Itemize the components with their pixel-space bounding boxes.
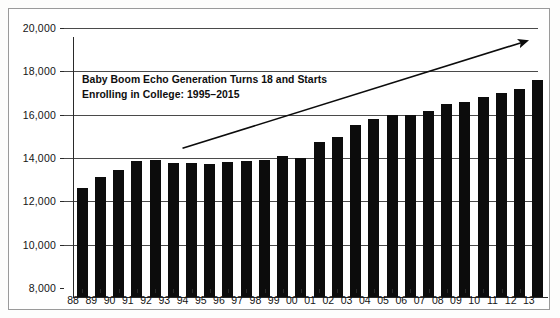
annotation-line-1: Baby Boom Echo Generation Turns 18 and S… xyxy=(82,72,352,87)
x-axis-tick-mark xyxy=(155,289,156,293)
x-axis-tick-mark xyxy=(319,289,320,293)
bar xyxy=(314,142,325,297)
bar xyxy=(222,162,233,297)
x-axis-tick-label: 07 xyxy=(414,294,426,306)
x-axis-tick-label: 02 xyxy=(323,294,335,306)
x-axis-tick-mark xyxy=(520,289,521,293)
bar xyxy=(332,137,343,297)
bar xyxy=(77,188,88,297)
x-axis-tick-label: 00 xyxy=(286,294,298,306)
x-axis-tick-label: 89 xyxy=(86,294,98,306)
bar xyxy=(496,93,507,297)
x-axis-tick-mark xyxy=(246,289,247,293)
x-axis-tick-label: 12 xyxy=(505,294,517,306)
x-axis-tick-label: 06 xyxy=(395,294,407,306)
x-axis-tick-label: 13 xyxy=(523,294,535,306)
y-axis-tick-mark xyxy=(60,158,64,159)
x-axis-tick-label: 95 xyxy=(195,294,207,306)
x-axis-tick-mark xyxy=(119,289,120,293)
y-axis-tick-mark xyxy=(60,71,64,72)
x-axis-tick-label: 11 xyxy=(487,294,498,306)
x-axis-tick-mark xyxy=(301,289,302,293)
x-axis-tick-label: 97 xyxy=(231,294,243,306)
chart-annotation-text: Baby Boom Echo Generation Turns 18 and S… xyxy=(82,72,352,102)
x-axis-tick-mark xyxy=(447,289,448,293)
bar xyxy=(113,170,124,297)
bar xyxy=(150,160,161,297)
x-axis-tick-mark xyxy=(356,289,357,293)
x-axis-tick-mark xyxy=(100,289,101,293)
y-axis-tick-label: 10,000 xyxy=(9,239,56,251)
bar xyxy=(423,111,434,297)
x-axis-tick-label: 93 xyxy=(158,294,170,306)
bar xyxy=(131,161,142,297)
x-axis-tick-mark xyxy=(337,289,338,293)
bar xyxy=(405,115,416,297)
x-axis-tick-mark xyxy=(228,289,229,293)
x-axis-tick-label: 05 xyxy=(377,294,389,306)
y-axis-tick-mark xyxy=(60,245,64,246)
x-axis-tick-label: 09 xyxy=(450,294,462,306)
x-axis-tick-label: 94 xyxy=(177,294,189,306)
bar xyxy=(514,89,525,297)
x-axis-tick-label: 90 xyxy=(104,294,116,306)
bar xyxy=(186,163,197,297)
x-axis-tick-label: 98 xyxy=(250,294,262,306)
bar xyxy=(277,156,288,297)
y-axis-tick-mark xyxy=(60,201,64,202)
x-axis-tick-mark xyxy=(465,289,466,293)
y-axis-tick-label: 20,000 xyxy=(9,22,56,34)
x-axis-tick-mark xyxy=(82,289,83,293)
y-axis-tick-mark xyxy=(60,28,64,29)
bar xyxy=(204,164,215,297)
bar xyxy=(259,160,270,297)
y-axis-tick-mark xyxy=(60,288,64,289)
bar xyxy=(478,97,489,297)
bar xyxy=(350,125,361,297)
annotation-line-2: Enrolling in College: 1995–2015 xyxy=(82,87,352,102)
x-axis-tick-label: 01 xyxy=(304,294,316,306)
chart-figure: 20,00018,00016,00014,00012,00010,0008,00… xyxy=(0,0,560,318)
x-axis-tick-mark xyxy=(392,289,393,293)
bar xyxy=(241,161,252,297)
bar xyxy=(295,158,306,297)
y-axis-tick-mark xyxy=(60,115,64,116)
y-axis-tick-label: 18,000 xyxy=(9,65,56,77)
x-axis-tick-mark xyxy=(429,289,430,293)
y-axis-tick-label: 16,000 xyxy=(9,109,56,121)
x-axis-tick-label: 96 xyxy=(213,294,225,306)
x-axis-tick-mark xyxy=(502,289,503,293)
x-axis-tick-label: 91 xyxy=(122,294,134,306)
x-axis-tick-label: 92 xyxy=(140,294,152,306)
x-axis-tick-mark xyxy=(483,289,484,293)
x-axis-tick-label: 88 xyxy=(67,294,79,306)
y-axis-tick-label: 8,000 xyxy=(9,282,56,294)
y-axis-tick-label: 12,000 xyxy=(9,195,56,207)
x-axis-tick-mark xyxy=(283,289,284,293)
x-axis-tick-label: 08 xyxy=(432,294,444,306)
bar xyxy=(459,102,470,297)
x-axis-tick-mark xyxy=(265,289,266,293)
x-axis-tick-mark xyxy=(173,289,174,293)
x-axis-tick-mark xyxy=(210,289,211,293)
bar xyxy=(368,119,379,297)
bar xyxy=(95,177,106,297)
bar xyxy=(387,115,398,297)
x-axis-tick-mark xyxy=(410,289,411,293)
x-axis-tick-label: 10 xyxy=(468,294,480,306)
x-axis-tick-label: 03 xyxy=(341,294,353,306)
gridline xyxy=(64,28,538,29)
bar xyxy=(441,104,452,297)
x-axis-tick-mark xyxy=(374,289,375,293)
y-axis-tick-label: 14,000 xyxy=(9,152,56,164)
chart-frame: 20,00018,00016,00014,00012,00010,0008,00… xyxy=(8,8,550,310)
x-axis-tick-label: 99 xyxy=(268,294,280,306)
x-axis-tick-label: 04 xyxy=(359,294,371,306)
x-axis-tick-mark xyxy=(192,289,193,293)
x-axis-tick-mark xyxy=(137,289,138,293)
bar xyxy=(168,163,179,297)
bar xyxy=(532,80,543,297)
